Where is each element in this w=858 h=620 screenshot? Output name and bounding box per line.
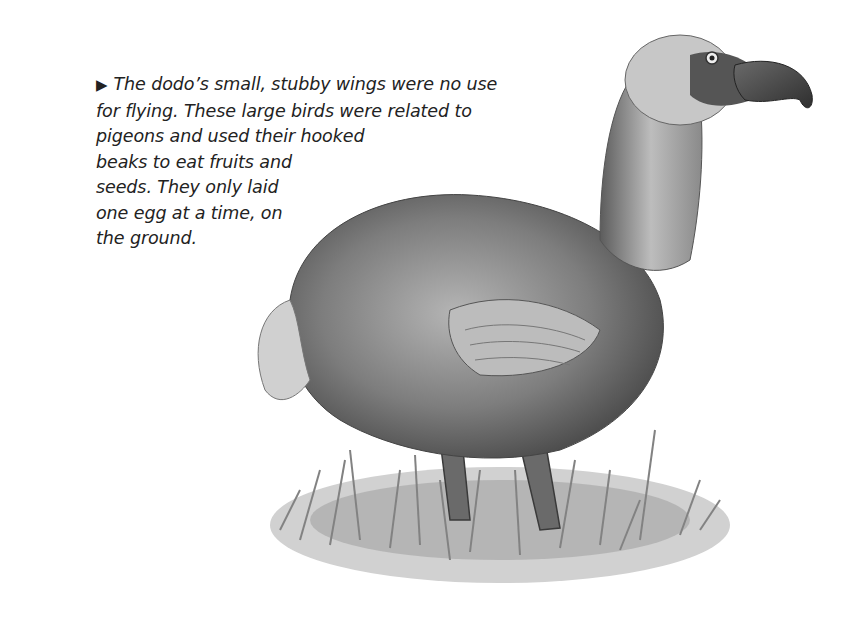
caption-line-7: the ground. <box>96 226 476 252</box>
caption-line-6: one egg at a time, on <box>96 201 476 227</box>
caption-line-4: beaks to eat fruits and <box>96 150 476 176</box>
caption-line-5: seeds. They only laid <box>96 175 476 201</box>
triangle-bullet-icon: ▶ <box>96 76 107 94</box>
caption-line-1: ▶The dodo’s small, stubby wings were no … <box>96 72 476 99</box>
caption: ▶The dodo’s small, stubby wings were no … <box>96 72 476 252</box>
caption-line-3: pigeons and used their hooked <box>96 124 476 150</box>
caption-line-2: for flying. These large birds were relat… <box>96 99 476 125</box>
